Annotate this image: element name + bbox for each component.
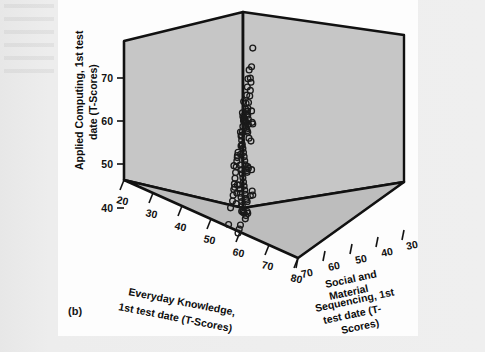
- y-tick-50: 50: [101, 158, 124, 170]
- x-tick-mark-60: [236, 232, 240, 242]
- z-tick-30: 30: [402, 230, 418, 252]
- y-axis-title-line1: Applied Computing, 1st test: [73, 30, 85, 170]
- x-tick-70: 70: [261, 245, 275, 273]
- z-tick-label-70: 70: [300, 266, 314, 280]
- z-tick-label-50: 50: [354, 252, 368, 266]
- y-tick-70: 70: [101, 72, 124, 84]
- z-tick-mark-30: [402, 230, 404, 240]
- y-tick-label-50: 50: [101, 158, 113, 170]
- figure-root: 70 60 50 40 Applied Computi: [0, 0, 485, 352]
- y-tick-label-70: 70: [101, 72, 113, 84]
- x-tick-40: 40: [174, 206, 188, 234]
- y-tick-label-60: 60: [101, 115, 113, 127]
- x-tick-30: 30: [145, 193, 159, 221]
- x-tick-50: 50: [203, 219, 217, 247]
- z-tick-mark-40: [376, 237, 378, 247]
- x-tick-label-50: 50: [203, 232, 217, 246]
- x-tick-label-20: 20: [116, 193, 130, 207]
- x-tick-label-40: 40: [174, 219, 188, 233]
- scatter3d-svg: 70 60 50 40 Applied Computi: [58, 0, 418, 336]
- right-wall: [243, 12, 404, 208]
- z-tick-60: 60: [323, 251, 341, 273]
- y-axis-title-line2: date (T-Scores): [87, 64, 99, 140]
- z-tick-label-40: 40: [380, 245, 394, 259]
- x-tick-label-30: 30: [145, 206, 159, 220]
- figure-panel: 70 60 50 40 Applied Computi: [58, 0, 418, 336]
- z-tick-50: 50: [350, 244, 368, 266]
- z-tick-mark-70: [296, 258, 298, 268]
- x-tick-mark-70: [265, 245, 269, 255]
- x-tick-mark-20: [120, 180, 124, 190]
- z-tick-mark-50: [350, 244, 352, 254]
- y-tick-60: 60: [101, 115, 124, 127]
- left-wall: [124, 12, 243, 208]
- z-tick-label-60: 60: [327, 259, 341, 273]
- x-tick-mark-50: [207, 219, 211, 229]
- y-tick-label-40: 40: [101, 202, 113, 214]
- x-tick-mark-30: [149, 193, 153, 203]
- x-tick-label-60: 60: [232, 245, 246, 259]
- z-tick-mark-60: [323, 251, 325, 261]
- scan-artifact-text: [4, 4, 54, 74]
- z-tick-40: 40: [376, 237, 394, 259]
- x-tick-20: 20: [116, 180, 130, 208]
- x-tick-label-70: 70: [261, 258, 275, 272]
- z-tick-label-30: 30: [405, 238, 418, 252]
- x-tick-mark-40: [178, 206, 182, 216]
- subplot-label: (b): [68, 305, 82, 317]
- plot-stage: 70 60 50 40 Applied Computi: [58, 0, 418, 336]
- y-axis-group: 70 60 50 40 Applied Computi: [73, 30, 124, 214]
